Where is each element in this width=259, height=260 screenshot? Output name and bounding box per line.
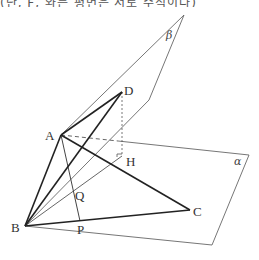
geometry-diagram: A B C D H P Q α β — [0, 0, 259, 260]
segment-ad — [61, 92, 122, 135]
label-c: C — [193, 204, 202, 219]
label-beta: β — [165, 29, 172, 42]
label-q: Q — [75, 188, 85, 203]
segment-ap — [61, 135, 80, 221]
label-h: H — [126, 154, 135, 169]
label-a: A — [45, 128, 55, 143]
label-p: P — [77, 222, 84, 237]
label-alpha: α — [234, 155, 242, 168]
segment-bd — [25, 92, 122, 226]
plane-alpha — [25, 141, 249, 245]
label-b: B — [11, 220, 20, 235]
segment-ab — [25, 135, 61, 226]
label-d: D — [124, 83, 133, 98]
segment-bc — [25, 210, 190, 226]
